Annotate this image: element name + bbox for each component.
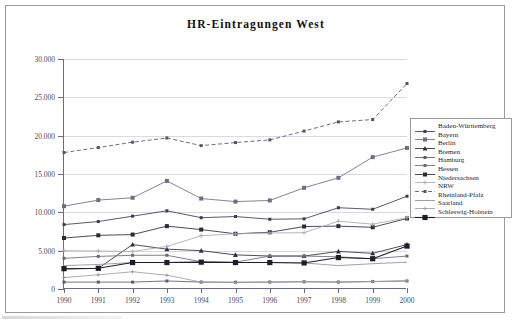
- data-point-marker: [131, 141, 134, 144]
- chart-page: HR-Eintragungen West 05.00010.00015.0002…: [0, 0, 517, 328]
- series-line: [64, 148, 407, 206]
- data-point-marker: [97, 255, 100, 258]
- data-point-marker: [62, 236, 66, 240]
- legend-item-berlin[interactable]: Berlin: [414, 139, 509, 148]
- data-point-marker: [406, 195, 409, 198]
- data-point-marker: [336, 176, 340, 180]
- data-point-marker: [130, 260, 135, 265]
- data-point-marker: [268, 218, 271, 221]
- legend-label: Baden-Württemberg: [436, 122, 495, 131]
- legend-label: NRW: [436, 182, 454, 191]
- data-point-marker: [97, 220, 100, 223]
- data-point-marker: [302, 230, 306, 234]
- legend-item-hessen[interactable]: Hessen: [414, 165, 509, 174]
- data-point-marker: [422, 215, 427, 220]
- series-hessen: [62, 216, 409, 240]
- y-axis-label: 15.000: [34, 170, 55, 179]
- data-point-marker: [131, 215, 134, 218]
- data-point-marker: [199, 260, 204, 265]
- y-axis-label: 25.000: [34, 93, 55, 102]
- legend-label: Bayern: [436, 131, 458, 140]
- legend-item-baden-w-rttemberg[interactable]: Baden-Württemberg: [414, 122, 509, 131]
- data-point-marker: [165, 279, 168, 282]
- legend-item-niedersachsen[interactable]: Niedersachsen: [414, 174, 509, 183]
- data-point-marker: [404, 243, 409, 248]
- data-point-marker: [164, 260, 169, 265]
- data-point-marker: [97, 146, 100, 149]
- data-point-marker: [337, 206, 340, 209]
- data-point-marker: [234, 215, 237, 218]
- data-point-marker: [97, 281, 100, 284]
- legend-label: Schleswig-Holstein: [436, 208, 493, 217]
- data-point-marker: [234, 200, 238, 204]
- legend-item-bayern[interactable]: Bayern: [414, 131, 509, 140]
- data-point-marker: [337, 120, 340, 123]
- data-point-marker: [302, 225, 306, 229]
- x-axis-label: 1996: [262, 296, 277, 305]
- data-point-marker: [303, 217, 306, 220]
- plot-area: 05.00010.00015.00020.00025.00030.000 199…: [63, 59, 406, 289]
- data-point-marker: [302, 186, 306, 190]
- data-point-marker: [62, 276, 66, 280]
- x-axis-label: 1994: [194, 296, 209, 305]
- data-point-marker: [199, 228, 203, 232]
- x-axis-label: 1993: [159, 296, 174, 305]
- data-point-marker: [63, 257, 66, 260]
- data-point-marker: [131, 196, 135, 200]
- legend-item-hamburg[interactable]: Hamburg: [414, 156, 509, 165]
- data-point-marker: [130, 242, 135, 247]
- y-axis-label: 0: [51, 285, 55, 294]
- data-point-marker: [199, 197, 203, 201]
- data-point-marker: [336, 255, 341, 260]
- data-point-marker: [97, 273, 101, 277]
- legend-item-nrw[interactable]: NRW: [414, 182, 509, 191]
- legend-item-rheinland-pfalz[interactable]: Rheinland-Pfalz: [414, 191, 509, 200]
- data-point-marker: [62, 204, 66, 208]
- legend-label: Niedersachsen: [436, 174, 479, 183]
- y-axis-label: 5.000: [38, 246, 55, 255]
- data-point-marker: [406, 255, 409, 258]
- data-point-marker: [165, 209, 168, 212]
- legend-key-icon: [414, 208, 436, 217]
- legend-item-schleswig-holstein[interactable]: Schleswig-Holstein: [414, 208, 509, 217]
- data-point-marker: [200, 144, 203, 147]
- x-axis-label: 1999: [365, 296, 380, 305]
- data-point-marker: [371, 155, 375, 159]
- data-point-marker: [130, 249, 134, 253]
- data-point-marker: [336, 219, 340, 223]
- data-point-marker: [165, 273, 169, 277]
- figure-frame: HR-Eintragungen West 05.00010.00015.0002…: [5, 5, 505, 313]
- data-point-marker: [63, 223, 66, 226]
- x-axis-label: 1998: [331, 296, 346, 305]
- legend-item-saarland[interactable]: Saarland: [414, 199, 509, 208]
- data-point-marker: [165, 224, 169, 228]
- y-axis-label: 30.000: [34, 55, 55, 64]
- data-point-marker: [268, 255, 271, 258]
- legend-label: Saarland: [436, 199, 463, 208]
- legend-item-bremen[interactable]: Bremen: [414, 148, 509, 157]
- frame-shadow: [2, 316, 122, 319]
- data-point-marker: [303, 130, 306, 133]
- data-point-marker: [199, 234, 203, 238]
- data-point-marker: [371, 118, 374, 121]
- data-point-marker: [370, 256, 375, 261]
- data-point-marker: [302, 260, 307, 265]
- data-point-marker: [268, 198, 272, 202]
- x-axis-label: 1992: [125, 296, 140, 305]
- legend-label: Hessen: [436, 165, 458, 174]
- x-axis-label: 2000: [400, 296, 415, 305]
- series-baden-w-rttemberg: [63, 195, 409, 226]
- x-axis-label: 1997: [297, 296, 312, 305]
- data-point-marker: [165, 179, 169, 183]
- legend-label: Rheinland-Pfalz: [436, 191, 484, 200]
- legend-label: Bremen: [436, 148, 460, 157]
- data-point-marker: [63, 281, 66, 284]
- x-axis-label: 1990: [57, 296, 72, 305]
- data-point-marker: [62, 248, 66, 252]
- series-bayern: [62, 146, 409, 208]
- series-lines: [64, 59, 407, 289]
- data-point-marker: [131, 233, 135, 237]
- data-point-marker: [336, 224, 340, 228]
- x-axis-tick: [407, 288, 408, 293]
- chart-title: HR-Eintragungen West: [6, 18, 506, 30]
